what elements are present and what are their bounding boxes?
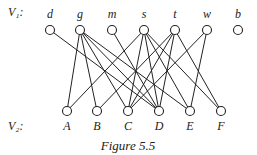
node-C	[124, 107, 133, 116]
node-B	[93, 107, 102, 116]
node-label-g: g	[77, 7, 83, 21]
node-A	[63, 107, 72, 116]
node-label-d: d	[47, 7, 54, 21]
node-label-A: A	[62, 119, 71, 133]
edge-g-C	[80, 30, 128, 111]
node-label-D: D	[154, 119, 164, 133]
partition-label-v2: V₂:	[8, 119, 24, 133]
node-label-C: C	[124, 119, 133, 133]
node-g	[76, 26, 85, 35]
node-label-s: s	[142, 7, 147, 21]
bipartite-graph: dgmstwbABCDEF V₁: V₂: Figure 5.5	[0, 0, 257, 155]
node-label-w: w	[203, 7, 211, 21]
node-label-E: E	[185, 119, 194, 133]
node-w	[203, 26, 212, 35]
node-t	[171, 26, 180, 35]
node-label-F: F	[216, 119, 225, 133]
node-F	[217, 107, 226, 116]
node-label-m: m	[108, 7, 117, 21]
edge-s-F	[144, 30, 221, 111]
edge-g-B	[80, 30, 97, 111]
edge-t-B	[97, 30, 175, 111]
partition-label-v1: V₁:	[8, 5, 24, 19]
node-m	[108, 26, 117, 35]
figure-caption: Figure 5.5	[100, 138, 156, 153]
node-label-B: B	[93, 119, 101, 133]
edge-w-E	[190, 30, 207, 111]
node-D	[155, 107, 164, 116]
node-label-t: t	[173, 7, 177, 21]
node-b	[234, 26, 243, 35]
edges	[50, 30, 221, 111]
node-s	[140, 26, 149, 35]
node-d	[46, 26, 55, 35]
node-E	[186, 107, 195, 116]
node-label-b: b	[235, 7, 241, 21]
